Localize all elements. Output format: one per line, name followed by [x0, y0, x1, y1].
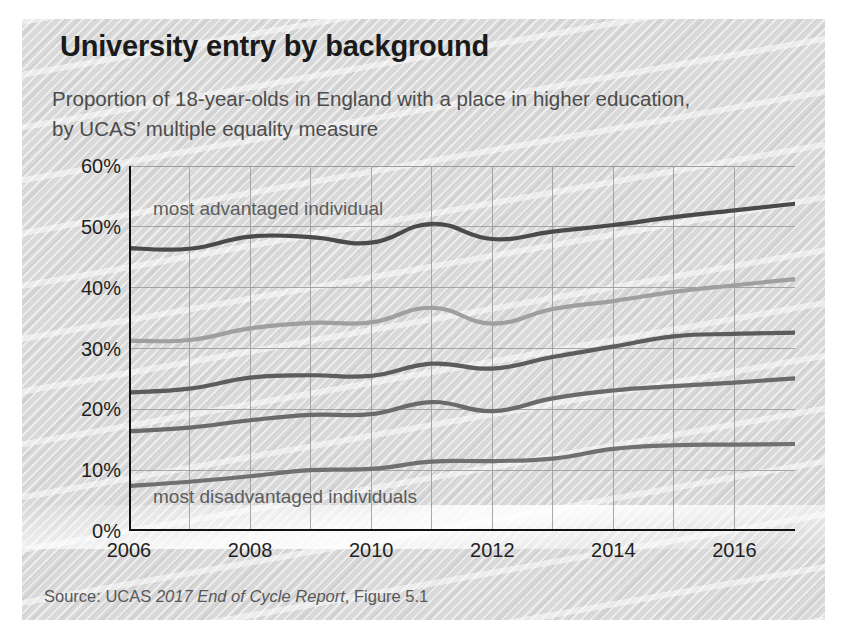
annotation-most-advantaged: most advantaged individual [153, 198, 383, 220]
x-axis-tick-label: 2014 [591, 539, 636, 562]
plot-area [129, 166, 795, 531]
x-axis-tick-label: 2008 [228, 539, 273, 562]
x-axis-tick-label: 2006 [107, 539, 152, 562]
series-lines [129, 204, 795, 486]
x-axis-labels: 200620082010201220142016 [129, 539, 795, 569]
x-axis-tick-label: 2012 [470, 539, 515, 562]
figure-root: University entry by background Proportio… [0, 0, 847, 642]
source-caption: Source: UCAS 2017 End of Cycle Report, F… [44, 587, 428, 606]
y-axis-tick-label: 20% [57, 398, 121, 421]
y-axis-tick-label: 40% [57, 276, 121, 299]
chart-title: University entry by background [60, 30, 489, 63]
source-report-title: 2017 End of Cycle Report [156, 587, 345, 605]
y-axis-tick-label: 30% [57, 337, 121, 360]
plot-svg [129, 166, 795, 531]
source-prefix: Source: UCAS [44, 587, 156, 605]
y-axis-tick-label: 60% [57, 155, 121, 178]
x-axis-tick-label: 2010 [349, 539, 394, 562]
y-axis-tick-label: 50% [57, 215, 121, 238]
x-axis-tick-label: 2016 [712, 539, 757, 562]
y-axis-labels: 60%50%40%30%20%10%0% [57, 166, 121, 531]
chart-subtitle: Proportion of 18-year-olds in England wi… [52, 84, 692, 144]
annotation-most-disadvantaged: most disadvantaged individuals [153, 486, 417, 508]
source-suffix: , Figure 5.1 [345, 587, 428, 605]
y-axis-tick-label: 10% [57, 459, 121, 482]
